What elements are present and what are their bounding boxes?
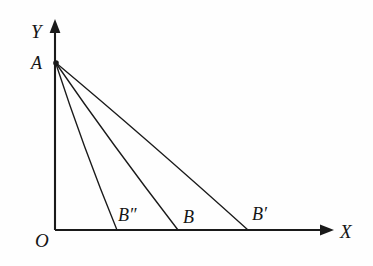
point-label-b: B: [183, 208, 194, 226]
ray-a-to-b: [56, 63, 179, 231]
origin-label: O: [35, 231, 49, 250]
point-label-b-prime: B′: [252, 205, 267, 223]
y-axis-arrow-icon: [50, 19, 61, 33]
x-axis-label: X: [340, 222, 352, 241]
vertex-point-a: [53, 60, 59, 66]
point-label-a: A: [31, 54, 42, 72]
x-axis-arrow-icon: [320, 225, 334, 236]
point-label-b-double-prime: B″: [118, 206, 137, 224]
y-axis-label: Y: [31, 22, 42, 41]
geometry-diagram: Y X O A B″ B B′: [0, 0, 373, 266]
